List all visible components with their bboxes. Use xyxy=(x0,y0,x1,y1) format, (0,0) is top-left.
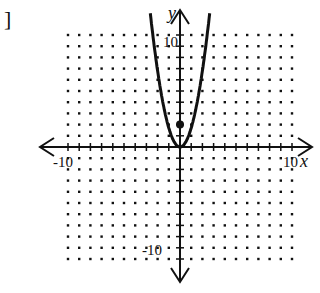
grid-dot xyxy=(67,101,69,103)
grid-dot xyxy=(201,235,203,237)
grid-dot xyxy=(268,179,270,181)
grid-dot xyxy=(201,179,203,181)
grid-dot xyxy=(190,90,192,92)
grid-dot xyxy=(257,168,259,170)
grid-dot xyxy=(291,224,293,226)
grid-dot xyxy=(89,123,91,125)
grid-dot xyxy=(291,258,293,260)
grid-dot xyxy=(67,247,69,249)
grid-dot xyxy=(123,191,125,193)
grid-dot xyxy=(78,202,80,204)
grid-dot xyxy=(123,202,125,204)
grid-dot xyxy=(168,157,170,159)
grid-dot xyxy=(224,34,226,36)
grid-dot xyxy=(100,202,102,204)
grid-dot xyxy=(78,168,80,170)
grid-dot xyxy=(201,224,203,226)
grid-dot xyxy=(257,247,259,249)
grid-dot xyxy=(100,56,102,58)
grid-dot xyxy=(134,191,136,193)
grid-dot xyxy=(112,213,114,215)
grid-dot xyxy=(201,202,203,204)
grid-dot xyxy=(112,90,114,92)
grid-dot xyxy=(123,67,125,69)
grid-dot xyxy=(291,123,293,125)
grid-dot xyxy=(257,101,259,103)
grid-dot xyxy=(212,191,214,193)
grid-dot xyxy=(134,157,136,159)
grid-dot xyxy=(190,34,192,36)
grid-dot xyxy=(67,90,69,92)
grid-dot xyxy=(67,191,69,193)
grid-dot xyxy=(246,34,248,36)
grid-dot xyxy=(78,90,80,92)
grid-dot xyxy=(134,247,136,249)
grid-dot xyxy=(112,79,114,81)
grid-dot xyxy=(78,258,80,260)
grid-dot xyxy=(190,202,192,204)
grid-dot xyxy=(280,79,282,81)
grid-dot xyxy=(123,135,125,137)
grid-dot xyxy=(89,157,91,159)
grid-dot xyxy=(291,79,293,81)
grid-dot xyxy=(224,191,226,193)
grid-dot xyxy=(156,123,158,125)
grid-dot xyxy=(268,135,270,137)
grid-dot xyxy=(280,247,282,249)
grid-dot xyxy=(123,123,125,125)
grid-dot xyxy=(168,247,170,249)
grid-dot xyxy=(212,258,214,260)
grid-dot xyxy=(89,213,91,215)
grid-dot xyxy=(224,157,226,159)
grid-dot xyxy=(268,56,270,58)
grid-dot xyxy=(145,123,147,125)
grid-dot xyxy=(145,101,147,103)
grid-dot xyxy=(112,191,114,193)
grid-dot xyxy=(224,90,226,92)
grid-dot xyxy=(156,157,158,159)
grid-dot xyxy=(145,191,147,193)
grid-dot xyxy=(246,202,248,204)
grid-dot xyxy=(268,202,270,204)
grid-dot xyxy=(212,123,214,125)
grid-dot xyxy=(78,67,80,69)
grid-dot xyxy=(280,168,282,170)
grid-dot xyxy=(235,235,237,237)
grid-dot xyxy=(235,202,237,204)
grid-dot xyxy=(100,235,102,237)
grid-dot xyxy=(156,202,158,204)
grid-dot xyxy=(123,179,125,181)
grid-dot xyxy=(168,56,170,58)
grid-dot xyxy=(212,202,214,204)
grid-dot xyxy=(145,258,147,260)
grid-dot xyxy=(257,157,259,159)
grid-dot xyxy=(134,258,136,260)
grid-dot xyxy=(224,179,226,181)
grid-dot xyxy=(212,213,214,215)
grid-dot xyxy=(246,247,248,249)
grid-dot xyxy=(224,123,226,125)
grid-dot xyxy=(100,34,102,36)
grid-dot xyxy=(190,168,192,170)
grid-dot xyxy=(67,224,69,226)
grid-dot xyxy=(291,202,293,204)
grid-dot xyxy=(246,258,248,260)
grid-dot xyxy=(112,157,114,159)
grid-dot xyxy=(100,168,102,170)
grid-dot xyxy=(246,213,248,215)
grid-dot xyxy=(280,123,282,125)
grid-dot xyxy=(235,79,237,81)
grid-dot xyxy=(123,224,125,226)
grid-dot xyxy=(190,213,192,215)
grid-dot xyxy=(235,258,237,260)
grid-dot xyxy=(112,56,114,58)
grid-dot xyxy=(145,213,147,215)
grid-dot xyxy=(268,168,270,170)
grid-dot xyxy=(235,247,237,249)
grid-dot xyxy=(67,135,69,137)
grid-dot xyxy=(224,112,226,114)
grid-dot xyxy=(280,112,282,114)
grid-dot xyxy=(78,79,80,81)
grid-dot xyxy=(67,258,69,260)
grid-dot xyxy=(235,179,237,181)
